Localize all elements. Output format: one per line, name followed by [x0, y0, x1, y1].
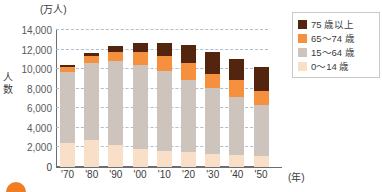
bar-segment-0	[254, 156, 269, 167]
bar-segment-2	[181, 63, 196, 80]
bar-segment-0	[205, 154, 220, 167]
bar-segment-2	[229, 80, 244, 96]
y-axis-title: 人数	[2, 72, 14, 96]
y-axis-tick-label: 4,000	[27, 122, 52, 133]
bar-segment-2	[254, 91, 269, 105]
bar-segment-0	[108, 145, 123, 167]
bar-segment-0	[229, 155, 244, 167]
bar-40[interactable]	[229, 59, 244, 168]
bar-segment-3	[254, 67, 269, 91]
y-axis-tick-label: 6,000	[27, 103, 52, 114]
bar-segment-3	[157, 43, 172, 57]
bar-segment-2	[157, 56, 172, 71]
bar-70[interactable]	[60, 65, 75, 167]
y-axis-tick-label: 0	[46, 162, 52, 173]
plot-area: 02,0004,0006,0008,00010,00012,00014,000	[56, 30, 268, 167]
decorative-dot	[6, 182, 26, 192]
gridline-14000: 14,000	[56, 29, 268, 30]
bar-segment-3	[181, 45, 196, 63]
legend-item-2[interactable]: 15～64 歳	[298, 45, 373, 59]
y-axis-tick-label: 2,000	[27, 142, 52, 153]
bar-segment-1	[60, 72, 75, 143]
bar-segment-0	[84, 140, 99, 167]
y-axis-tick-label: 14,000	[21, 25, 52, 36]
x-axis-line	[56, 167, 282, 168]
x-axis-unit-label: (年)	[288, 169, 305, 184]
bar-20[interactable]	[181, 45, 196, 168]
bar-segment-1	[157, 71, 172, 150]
legend-label: 65～74 歳	[311, 31, 355, 45]
bar-segment-1	[181, 80, 196, 152]
chart-legend: 75 歳以上65～74 歳15～64 歳0～14 歳	[292, 12, 380, 78]
legend-swatch-icon	[298, 20, 307, 29]
legend-label: 75 歳以上	[311, 17, 354, 31]
bar-segment-1	[84, 63, 99, 140]
bar-80[interactable]	[84, 53, 99, 167]
legend-item-0[interactable]: 75 歳以上	[298, 17, 373, 31]
bar-segment-1	[205, 88, 220, 154]
bar-segment-2	[205, 74, 220, 88]
bar-segment-3	[205, 52, 220, 74]
bar-segment-1	[133, 65, 148, 149]
x-axis-tick-label: '50	[246, 169, 276, 180]
legend-item-1[interactable]: 65～74 歳	[298, 31, 373, 45]
bar-segment-0	[181, 152, 196, 167]
bar-90[interactable]	[108, 46, 123, 167]
bar-segment-2	[133, 52, 148, 65]
legend-label: 15～64 歳	[311, 45, 355, 59]
legend-item-3[interactable]: 0～14 歳	[298, 59, 373, 73]
bar-30[interactable]	[205, 52, 220, 167]
y-axis-tick-label: 12,000	[21, 44, 52, 55]
bar-segment-1	[108, 61, 123, 145]
y-axis-tick-label: 10,000	[21, 64, 52, 75]
bar-segment-3	[229, 59, 244, 81]
legend-label: 0～14 歳	[311, 59, 350, 73]
bar-00[interactable]	[133, 43, 148, 167]
bar-segment-1	[229, 97, 244, 156]
bar-segment-0	[133, 149, 148, 167]
y-axis-tick-label: 8,000	[27, 83, 52, 94]
bar-segment-3	[133, 43, 148, 52]
bar-10[interactable]	[157, 43, 172, 167]
legend-swatch-icon	[298, 48, 307, 57]
bar-segment-2	[108, 52, 123, 61]
legend-swatch-icon	[298, 62, 307, 71]
bar-50[interactable]	[254, 67, 269, 167]
bar-segment-0	[157, 151, 172, 167]
legend-swatch-icon	[298, 34, 307, 43]
bar-segment-2	[84, 56, 99, 63]
y-axis-unit-label: (万人)	[40, 1, 67, 16]
population-stacked-bar-chart: (万人) 人数 02,0004,0006,0008,00010,00012,00…	[0, 0, 382, 192]
bar-segment-0	[60, 143, 75, 167]
bar-segment-1	[254, 105, 269, 157]
